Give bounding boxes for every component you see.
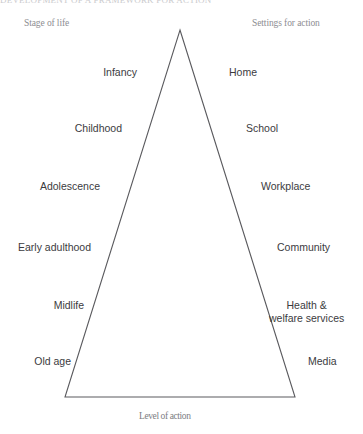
stage-label-early-adulthood: Early adulthood — [18, 241, 91, 254]
pyramid-diagram: DEVELOPMENT OF A FRAMEWORK FOR ACTION St… — [0, 0, 363, 434]
stage-label-infancy: Infancy — [103, 66, 137, 79]
stage-label-old-age: Old age — [34, 355, 71, 368]
stage-label-adolescence: Adolescence — [40, 180, 100, 193]
setting-label-health-welfare-services: Health & welfare services — [269, 299, 344, 325]
setting-label-workplace: Workplace — [261, 180, 310, 193]
diagram-caption-level-of-action: Level of action — [139, 411, 191, 421]
setting-label-community: Community — [277, 241, 330, 254]
stage-label-childhood: Childhood — [75, 122, 122, 135]
stage-label-midlife: Midlife — [54, 299, 84, 312]
triangle-shape — [0, 0, 363, 434]
setting-label-health-welfare-line2: welfare services — [269, 312, 344, 325]
setting-label-school: School — [246, 122, 278, 135]
triangle-outline — [65, 30, 295, 397]
setting-label-media: Media — [308, 355, 337, 368]
setting-label-health-welfare-line1: Health & — [269, 299, 344, 312]
column-header-stage-of-life: Stage of life — [24, 18, 69, 28]
column-header-settings-for-action: Settings for action — [252, 18, 320, 28]
setting-label-home: Home — [229, 66, 257, 79]
